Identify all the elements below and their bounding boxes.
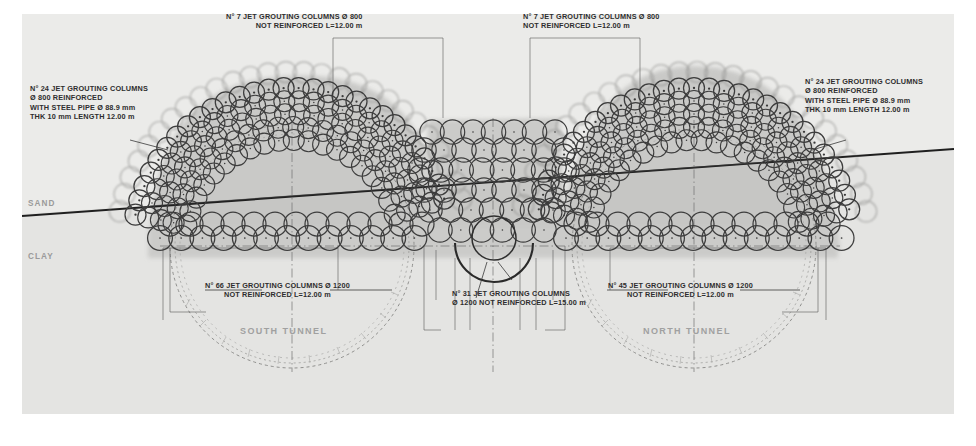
callout-line: Ø 800 REINFORCED <box>30 93 148 102</box>
stratum-label-clay: CLAY <box>28 252 54 261</box>
callout-center-bottom: N° 31 JET GROUTING COLUMNS Ø 1200 NOT RE… <box>452 289 586 308</box>
callout-line: NOT REINFORCED L=12.00 m <box>205 290 350 299</box>
callout-line: N° 45 JET GROUTING COLUMNS Ø 1200 <box>608 281 753 290</box>
callout-south-bottom: N° 66 JET GROUTING COLUMNS Ø 1200 NOT RE… <box>205 281 350 300</box>
cross-section-drawing <box>0 0 976 446</box>
callout-line: THK 10 mm LENGTH 12.00 m <box>805 105 923 114</box>
callout-line: N° 66 JET GROUTING COLUMNS Ø 1200 <box>205 281 350 290</box>
south-tunnel-label: SOUTH TUNNEL <box>240 326 327 336</box>
callout-left-reinforced: N° 24 JET GROUTING COLUMNS Ø 800 REINFOR… <box>30 84 148 122</box>
callout-line: NOT REINFORCED L=12.00 m <box>226 21 363 30</box>
callout-line: NOT REINFORCED L=12.00 m <box>608 290 753 299</box>
callout-line: N° 31 JET GROUTING COLUMNS <box>452 289 586 298</box>
callout-line: Ø 800 REINFORCED <box>805 86 923 95</box>
callout-line: NOT REINFORCED L=12.00 m <box>523 21 660 30</box>
stratum-label-sand: SAND <box>28 199 56 208</box>
callout-right-reinforced: N° 24 JET GROUTING COLUMNS Ø 800 REINFOR… <box>805 77 923 115</box>
callout-north-bottom: N° 45 JET GROUTING COLUMNS Ø 1200 NOT RE… <box>608 281 753 300</box>
callout-top-right-crown: N° 7 JET GROUTING COLUMNS Ø 800 NOT REIN… <box>523 12 660 31</box>
callout-line: N° 24 JET GROUTING COLUMNS <box>30 84 148 93</box>
callout-line: N° 24 JET GROUTING COLUMNS <box>805 77 923 86</box>
callout-line: WITH STEEL PIPE Ø 88.9 mm <box>30 103 148 112</box>
callout-line: N° 7 JET GROUTING COLUMNS Ø 800 <box>226 12 363 21</box>
callout-top-left-crown: N° 7 JET GROUTING COLUMNS Ø 800 NOT REIN… <box>226 12 363 31</box>
drawing-sheet: N° 24 JET GROUTING COLUMNS Ø 800 REINFOR… <box>0 0 976 446</box>
callout-line: N° 7 JET GROUTING COLUMNS Ø 800 <box>523 12 660 21</box>
callout-line: Ø 1200 NOT REINFORCED L=15.00 m <box>452 298 586 307</box>
callout-line: WITH STEEL PIPE Ø 88.9 mm <box>805 96 923 105</box>
callout-line: THK 10 mm LENGTH 12.00 m <box>30 112 148 121</box>
north-tunnel-label: NORTH TUNNEL <box>643 326 731 336</box>
